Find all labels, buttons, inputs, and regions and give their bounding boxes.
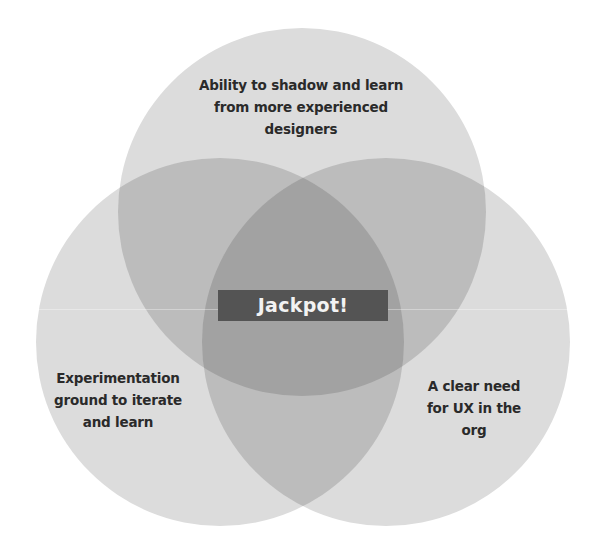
label-line: from more experienced (170, 96, 432, 118)
center-jackpot-label: Jackpot! (218, 290, 388, 321)
label-line: Experimentation (44, 367, 192, 389)
label-line: designers (170, 118, 432, 140)
venn-diagram: Ability to shadow and learn from more ex… (0, 0, 605, 548)
label-line: ground to iterate (44, 389, 192, 411)
label-left-set: Experimentation ground to iterate and le… (44, 367, 192, 433)
label-line: and learn (44, 411, 192, 433)
label-top-set: Ability to shadow and learn from more ex… (170, 74, 432, 140)
label-right-set: A clear need for UX in the org (414, 375, 534, 441)
label-line: for UX in the (414, 397, 534, 419)
label-line: org (414, 419, 534, 441)
label-line: A clear need (414, 375, 534, 397)
label-line: Ability to shadow and learn (170, 74, 432, 96)
